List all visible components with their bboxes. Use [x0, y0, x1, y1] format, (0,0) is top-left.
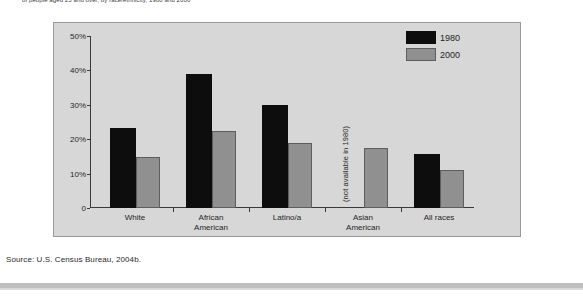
asian-american-not-available-note: (not available in 1980): [341, 126, 350, 202]
y-tick-label-10: 10%: [70, 169, 86, 178]
legend-entry-2000[interactable]: 2000: [406, 48, 502, 61]
bar-group-asian-american: (not available in 1980) Asian American: [332, 36, 394, 208]
bar-group-latino: Latino/a: [256, 36, 318, 208]
legend-entry-1980[interactable]: 1980: [406, 31, 502, 44]
bars-row-white: [104, 36, 166, 208]
bars-row-african-american: [180, 36, 242, 208]
bar-white-1980[interactable]: [110, 128, 136, 208]
cat-label-african-american-line-0: African: [180, 213, 242, 223]
cat-label-asian-american-line-1: American: [332, 223, 394, 233]
cat-label-all-races: All races: [408, 213, 470, 223]
bar-all-races-1980[interactable]: [414, 154, 440, 208]
cat-label-latino: Latino/a: [256, 213, 318, 223]
footer-rule-secondary: [0, 288, 583, 290]
legend-swatch-black-icon: [406, 31, 436, 44]
source-note: Source: U.S. Census Bureau, 2004b.: [6, 255, 141, 264]
bar-white-2000[interactable]: [136, 157, 160, 208]
bar-african-american-2000[interactable]: [212, 131, 236, 208]
y-tick-mark-40: [87, 70, 90, 71]
y-tick-mark-10: [87, 174, 90, 175]
cat-label-asian-american: Asian American: [332, 213, 394, 232]
cat-label-white-line-0: White: [104, 213, 166, 223]
bar-asian-american-2000[interactable]: [364, 148, 388, 208]
top-caption-text: of people aged 25 and over, by race/ethn…: [22, 0, 542, 3]
group-tick-2: [249, 208, 250, 212]
y-tick-label-30: 30%: [70, 100, 86, 109]
bar-latino-2000[interactable]: [288, 143, 312, 208]
cat-label-white: White: [104, 213, 166, 223]
bar-latino-1980[interactable]: [262, 105, 288, 208]
y-tick-mark-0: [87, 208, 90, 209]
legend-swatch-gray-icon: [406, 48, 436, 61]
y-tick-label-20: 20%: [70, 135, 86, 144]
y-axis-line: [90, 36, 91, 208]
legend-label-2000: 2000: [440, 50, 460, 60]
group-tick-4: [401, 208, 402, 212]
y-tick-label-0: 0: [82, 204, 86, 213]
bar-african-american-1980[interactable]: [186, 74, 212, 208]
group-tick-3: [325, 208, 326, 212]
chart-panel: 0 10% 20% 30% 40% 50% White: [53, 22, 521, 237]
bars-row-asian-american: (not available in 1980): [332, 36, 394, 208]
cat-label-african-american-line-1: American: [180, 223, 242, 233]
group-tick-1: [173, 208, 174, 212]
cat-label-african-american: African American: [180, 213, 242, 232]
bar-group-white: White: [104, 36, 166, 208]
y-tick-mark-30: [87, 105, 90, 106]
bar-all-races-2000[interactable]: [440, 170, 464, 208]
y-tick-mark-20: [87, 139, 90, 140]
bar-group-african-american: African American: [180, 36, 242, 208]
bars-row-latino: [256, 36, 318, 208]
cat-label-asian-american-line-0: Asian: [332, 213, 394, 223]
y-tick-mark-50: [87, 36, 90, 37]
y-tick-label-40: 40%: [70, 66, 86, 75]
top-caption-strip: of people aged 25 and over, by race/ethn…: [22, 0, 542, 5]
chart-legend: 1980 2000: [406, 31, 502, 65]
cat-label-all-races-line-0: All races: [408, 213, 470, 223]
cat-label-latino-line-0: Latino/a: [256, 213, 318, 223]
y-tick-label-50: 50%: [70, 32, 86, 41]
legend-label-1980: 1980: [440, 33, 460, 43]
